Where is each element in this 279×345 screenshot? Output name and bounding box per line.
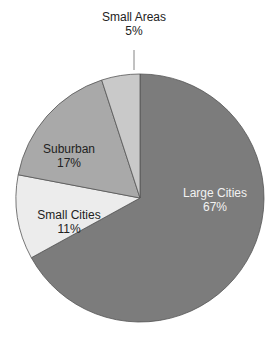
label-suburban-name: Suburban [43,142,95,156]
label-suburban-pct: 17% [43,156,95,170]
label-small-areas: Small Areas 5% [102,10,166,38]
label-small-cities-pct: 11% [37,222,100,236]
label-large-cities-name: Large Cities [183,186,247,200]
label-suburban: Suburban 17% [43,142,95,170]
pie-chart [0,0,279,345]
label-large-cities-pct: 67% [183,200,247,214]
label-small-areas-pct: 5% [102,24,166,38]
label-small-areas-name: Small Areas [102,10,166,24]
label-small-cities-name: Small Cities [37,208,100,222]
label-small-cities: Small Cities 11% [37,208,100,236]
label-large-cities: Large Cities 67% [183,186,247,214]
